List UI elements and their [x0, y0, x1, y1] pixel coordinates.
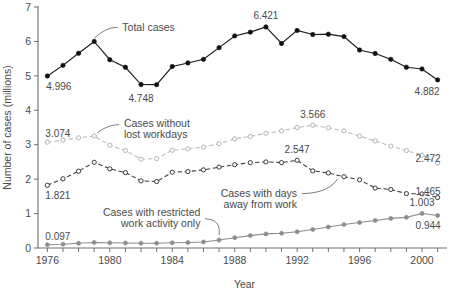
data-point	[404, 65, 408, 69]
data-point	[61, 242, 65, 246]
data-point-label: 0.097	[45, 231, 70, 242]
data-point	[170, 170, 174, 174]
x-axis-tick-label: 1988	[223, 254, 247, 266]
data-point	[326, 32, 330, 36]
data-point	[154, 82, 158, 86]
data-point	[357, 48, 361, 52]
data-point	[217, 238, 221, 242]
data-point	[311, 123, 315, 127]
data-point	[373, 186, 377, 190]
data-point	[76, 169, 80, 173]
data-point	[45, 183, 49, 187]
data-point	[45, 74, 49, 78]
data-point	[248, 234, 252, 238]
data-point	[201, 57, 205, 61]
annotation-leader-cases-restricted	[205, 219, 219, 235]
data-point	[155, 241, 159, 245]
data-point	[77, 241, 81, 245]
data-point	[170, 64, 174, 68]
series-line-total-cases	[47, 27, 437, 85]
data-point	[76, 51, 80, 55]
data-point	[139, 157, 143, 161]
data-point	[420, 67, 424, 71]
data-point	[61, 177, 65, 181]
data-point	[326, 126, 330, 130]
data-point	[279, 129, 283, 133]
annotation-leader-cases-with-days-away	[302, 179, 338, 194]
data-point	[357, 134, 361, 138]
data-point	[217, 45, 221, 49]
line-chart-canvas: 012345671976198019841988199219962000Year…	[0, 0, 453, 294]
x-axis-tick-label: 1992	[285, 254, 309, 266]
data-point	[279, 161, 283, 165]
data-point	[264, 131, 268, 135]
data-point	[295, 28, 299, 32]
data-point-label: 4.748	[129, 93, 154, 104]
data-point	[248, 134, 252, 138]
data-point-label: 1.821	[45, 190, 70, 201]
data-point	[186, 61, 190, 65]
data-point	[186, 169, 190, 173]
y-axis-tick-label: 1	[25, 207, 31, 219]
data-point	[123, 65, 127, 69]
data-point	[404, 215, 408, 219]
data-point	[170, 148, 174, 152]
data-point	[342, 223, 346, 227]
annotation-total-cases: Total cases	[122, 21, 175, 33]
data-point	[108, 57, 112, 61]
data-point-label: 4.882	[415, 86, 440, 97]
data-point	[123, 148, 127, 152]
data-point	[92, 240, 96, 244]
annotation-cases-restricted-line2: work activity only	[120, 217, 201, 229]
data-point	[389, 216, 393, 220]
data-point	[295, 230, 299, 234]
data-point	[389, 187, 393, 191]
data-point	[404, 148, 408, 152]
data-point	[139, 241, 143, 245]
data-point	[155, 179, 159, 183]
chart-figure: 012345671976198019841988199219962000Year…	[0, 0, 453, 294]
y-axis-tick-label: 3	[25, 138, 31, 150]
data-point	[357, 178, 361, 182]
data-point	[170, 241, 174, 245]
annotation-leader-cases-without-lost-workdays	[97, 125, 119, 133]
data-point	[233, 137, 237, 141]
data-point	[139, 179, 143, 183]
data-point	[264, 232, 268, 236]
data-point	[201, 240, 205, 244]
data-point	[217, 165, 221, 169]
annotation-cases-with-days-away-line2: away from work	[224, 198, 298, 210]
data-point	[311, 169, 315, 173]
data-point	[186, 240, 190, 244]
data-point	[61, 63, 65, 67]
data-point	[217, 142, 221, 146]
data-point	[311, 32, 315, 36]
data-point	[295, 158, 299, 162]
annotation-cases-without-lost-workdays-line2: lost workdays	[124, 128, 188, 140]
data-point	[186, 147, 190, 151]
data-point	[233, 163, 237, 167]
y-axis-tick-label: 4	[25, 104, 31, 116]
data-point	[420, 211, 424, 215]
data-point	[123, 171, 127, 175]
data-point	[108, 167, 112, 171]
data-point	[279, 41, 283, 45]
data-point	[280, 231, 284, 235]
data-point	[92, 39, 96, 43]
data-point	[201, 145, 205, 149]
data-point-label: 1.465	[416, 186, 441, 197]
data-point	[264, 160, 268, 164]
y-axis-tick-label: 7	[25, 1, 31, 13]
data-point	[92, 160, 96, 164]
data-point	[45, 140, 49, 144]
data-point	[326, 225, 330, 229]
y-axis-tick-label: 0	[25, 242, 31, 254]
data-point	[232, 34, 236, 38]
data-point	[373, 51, 377, 55]
data-point-label: 3.566	[300, 109, 325, 120]
data-point-label: 2.547	[285, 144, 310, 155]
data-point	[358, 221, 362, 225]
x-axis-tick-label: 1980	[98, 254, 122, 266]
data-point	[248, 161, 252, 165]
series-line-cases-without-lost-workdays	[47, 125, 437, 163]
